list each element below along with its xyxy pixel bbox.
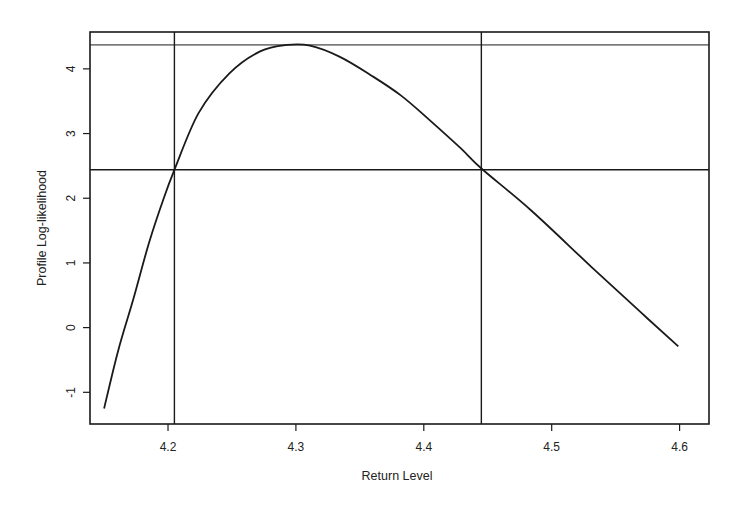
x-tick-label: 4.4 [415, 440, 432, 454]
profile-likelihood-curve [104, 44, 678, 408]
x-tick-label: 4.5 [543, 440, 560, 454]
plot-frame [90, 32, 709, 424]
x-axis-ticks: 4.24.34.44.54.6 [160, 424, 689, 454]
x-tick-label: 4.2 [160, 440, 177, 454]
y-tick-label: 2 [64, 195, 78, 202]
profile-likelihood-chart: 4.24.34.44.54.6 -101234 Return Level Pro… [0, 0, 744, 505]
x-axis-title: Return Level [362, 469, 433, 483]
y-tick-label: 1 [64, 259, 78, 266]
y-axis-title: Profile Log-likelihood [35, 170, 49, 286]
x-tick-label: 4.6 [671, 440, 688, 454]
y-axis-ticks: -101234 [64, 65, 90, 397]
y-tick-label: 3 [64, 130, 78, 137]
y-tick-label: 4 [64, 65, 78, 72]
x-tick-label: 4.3 [288, 440, 305, 454]
reference-lines [90, 32, 709, 424]
y-tick-label: -1 [64, 387, 78, 398]
y-tick-label: 0 [64, 324, 78, 331]
